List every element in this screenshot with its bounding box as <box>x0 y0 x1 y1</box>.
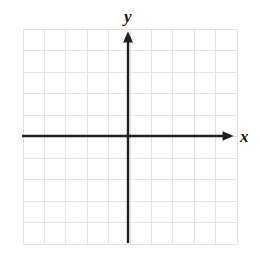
coordinate-plane-figure: y x <box>0 0 260 257</box>
y-axis-label: y <box>124 8 132 25</box>
coordinate-plane-graphic <box>0 0 260 257</box>
x-axis-label: x <box>240 128 249 145</box>
